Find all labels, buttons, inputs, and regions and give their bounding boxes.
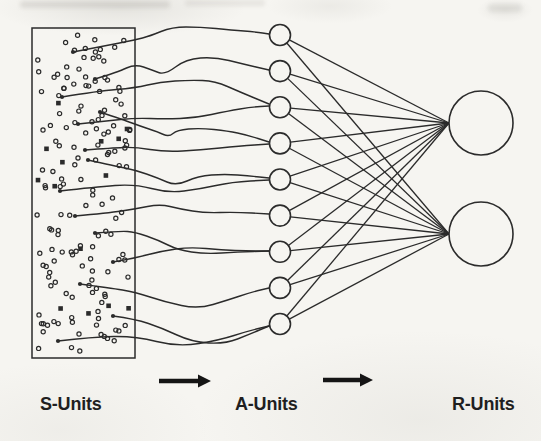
sensor-dot: [76, 33, 80, 37]
sensor-dot: [38, 251, 42, 255]
sensor-dot-filled: [106, 304, 111, 309]
sensor-dot: [41, 128, 45, 132]
sensor-dot: [64, 126, 68, 130]
sensor-dot: [48, 123, 52, 127]
connection-origin-dot: [111, 260, 115, 264]
sensor-dot: [105, 78, 109, 82]
sensor-dot: [91, 56, 95, 60]
a-unit-circle: [270, 97, 291, 118]
r-units-layer: [449, 91, 513, 266]
connection-origin-dot: [58, 189, 62, 193]
a-to-r-line: [287, 43, 449, 234]
sensor-dot: [72, 82, 76, 86]
sensor-dot: [97, 55, 101, 59]
sensor-dot: [84, 203, 88, 207]
sensor-dot: [40, 168, 44, 172]
connection-origin-dot: [98, 110, 102, 114]
sensor-dot: [94, 127, 98, 131]
sensor-dot: [37, 70, 41, 74]
a-unit-circle: [270, 169, 291, 190]
connection-origin-dot: [83, 148, 87, 152]
sensor-dot: [58, 112, 62, 116]
s-units-dot-field: [35, 33, 132, 353]
sensor-dot: [68, 213, 72, 217]
sensor-dot: [37, 313, 41, 317]
sensor-dot: [114, 98, 118, 102]
s-to-a-line: [113, 316, 269, 343]
sensor-dot: [79, 177, 83, 181]
a-to-r-line: [288, 78, 449, 234]
sensor-dot: [123, 139, 127, 143]
a-to-r-line: [288, 123, 449, 245]
sensor-dot: [51, 169, 55, 173]
sensor-dot: [39, 90, 43, 94]
s-to-a-line: [113, 248, 269, 262]
sensor-dot: [106, 130, 110, 134]
sensor-dot: [59, 213, 63, 217]
s-to-a-line: [95, 58, 269, 79]
sensor-dot: [93, 50, 97, 54]
sensor-dot-filled: [104, 173, 109, 178]
sensor-dot: [91, 188, 95, 192]
sensor-dot-filled: [99, 139, 104, 144]
sensor-dot: [37, 346, 41, 350]
sensor-dot: [84, 131, 88, 135]
sensor-dot: [96, 234, 100, 238]
sensor-dot-filled: [58, 306, 63, 311]
sensor-dot: [100, 300, 104, 304]
sensor-dot: [77, 109, 81, 113]
a-unit-circle: [270, 61, 291, 82]
sensor-dot-filled: [78, 246, 83, 251]
connection-origin-dot: [111, 314, 115, 318]
sensor-dot: [60, 177, 64, 181]
r-unit-circle: [449, 91, 513, 155]
a-unit-circle: [270, 205, 291, 226]
sensor-dot-filled: [36, 178, 41, 183]
sensor-dot: [109, 232, 113, 236]
sensor-dot: [89, 257, 93, 261]
sensor-dot-filled: [52, 184, 57, 189]
sensor-dot: [90, 269, 94, 273]
sensor-dot: [64, 40, 68, 44]
s-to-a-line: [88, 160, 269, 184]
sensor-dot: [35, 213, 39, 217]
sensor-dot: [54, 139, 58, 143]
sensor-dot: [50, 247, 54, 251]
a-to-r-line: [289, 123, 449, 211]
s-to-a-connections: [56, 27, 269, 345]
s-to-a-line: [62, 80, 269, 104]
sensor-dot-filled: [44, 147, 49, 152]
a-units-label: A-Units: [235, 394, 298, 415]
sensor-dot: [79, 104, 83, 108]
a-to-r-line: [289, 234, 449, 319]
connection-origin-dot: [60, 95, 64, 99]
a-to-r-line: [288, 123, 450, 281]
connection-origin-dot: [73, 214, 77, 218]
sensor-dot: [70, 295, 74, 299]
sensor-dot: [121, 252, 125, 256]
right-arrow-icon: [323, 374, 373, 387]
sensor-dot: [96, 309, 100, 313]
sensor-dot: [123, 323, 127, 327]
sensor-dot: [76, 156, 80, 160]
sensor-dot: [100, 202, 104, 206]
sensor-dot: [84, 75, 88, 79]
sensor-dot: [91, 193, 95, 197]
sensor-dot: [65, 75, 69, 79]
connection-origin-dot: [71, 50, 75, 54]
connection-origin-dot: [76, 122, 80, 126]
s-to-a-line: [95, 231, 269, 253]
sensor-dot: [60, 250, 64, 254]
sensor-dot: [110, 196, 114, 200]
sensor-dot: [56, 322, 60, 326]
a-units-layer: [270, 25, 291, 335]
sensor-dot: [93, 38, 97, 42]
sensor-dot: [82, 55, 86, 59]
sensor-dot: [77, 67, 81, 71]
sensor-dot: [96, 316, 100, 320]
sensor-dot: [113, 149, 117, 153]
sensor-dot: [98, 47, 102, 51]
sensor-dot: [114, 216, 118, 220]
sensor-dot: [112, 339, 116, 343]
sensor-dot: [113, 45, 117, 49]
